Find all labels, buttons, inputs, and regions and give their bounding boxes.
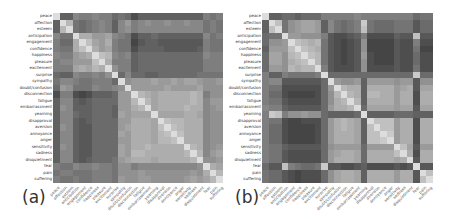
y-axis-labels-b: peaceaffectionesteemanticipationengageme… [229, 13, 262, 183]
x-tick-label: suffering [216, 183, 223, 213]
y-axis-labels-a: peaceaffectionesteemanticipationengageme… [20, 13, 53, 183]
heatmap-grid-a [53, 13, 223, 183]
y-tick-label: suffering [243, 176, 262, 183]
x-axis-labels-b: peaceaffectionesteemanticipationengageme… [262, 183, 432, 213]
x-axis-labels-a: peaceaffectionesteemanticipationengageme… [53, 183, 223, 213]
y-tick-label: suffering [34, 176, 53, 183]
x-tick-label: suffering [425, 183, 432, 213]
heatmap-panel-b: peaceaffectionesteemanticipationengageme… [230, 0, 453, 219]
heatmap-grid-b [262, 13, 433, 183]
panel-label-a: (a) [22, 187, 46, 207]
panel-label-b: (b) [235, 187, 259, 207]
heatmap-panel-a: peaceaffectionesteemanticipationengageme… [0, 0, 230, 219]
